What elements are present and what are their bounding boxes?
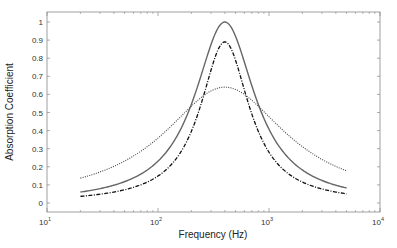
- x-tick-label: 103: [261, 216, 273, 227]
- y-tick-label: 0.5: [32, 109, 44, 118]
- x-tick-label: 104: [372, 216, 384, 227]
- y-tick-label: 0.1: [32, 181, 44, 190]
- x-axis-label: Frequency (Hz): [179, 229, 248, 240]
- y-tick-label: 0.8: [32, 54, 44, 63]
- y-tick-label: 0.3: [32, 145, 44, 154]
- y-tick-label: 0.7: [32, 72, 44, 81]
- y-tick-label: 0.6: [32, 90, 44, 99]
- y-tick-label: 0: [39, 199, 44, 208]
- absorption-chart: 00.10.20.30.40.50.60.70.80.91 1011021031…: [0, 0, 397, 248]
- y-tick-label: 0.2: [32, 163, 44, 172]
- x-tick-label: 102: [150, 216, 162, 227]
- plot-area: [47, 12, 380, 212]
- y-tick-label: 0.9: [32, 36, 44, 45]
- y-tick-label: 1: [39, 18, 44, 27]
- y-tick-label: 0.4: [32, 127, 44, 136]
- y-axis-label: Absorption Coefficient: [4, 63, 15, 161]
- x-tick-label: 101: [39, 216, 51, 227]
